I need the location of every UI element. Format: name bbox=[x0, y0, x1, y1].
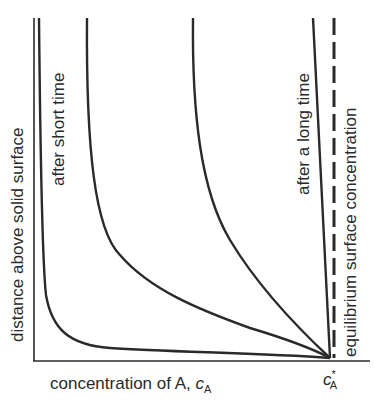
short-time-label: after short time bbox=[49, 73, 69, 186]
x-axis-label: concentration of A, cA bbox=[50, 374, 211, 395]
tick-subscript: A bbox=[330, 379, 337, 391]
x-axis-subscript: A bbox=[204, 383, 211, 395]
diagram-canvas bbox=[0, 0, 374, 406]
equilibrium-label: equilibrium surface concentration bbox=[341, 108, 361, 357]
c-star-tick-label: c*A bbox=[323, 368, 337, 391]
curve-short-time bbox=[39, 18, 330, 358]
y-axis-label: distance above solid surface bbox=[8, 127, 28, 342]
long-time-label: after a long time bbox=[294, 73, 314, 195]
x-axis-symbol: c bbox=[196, 374, 205, 393]
x-axis-label-text: concentration of A, bbox=[50, 374, 191, 393]
curve-long-time bbox=[313, 18, 330, 358]
